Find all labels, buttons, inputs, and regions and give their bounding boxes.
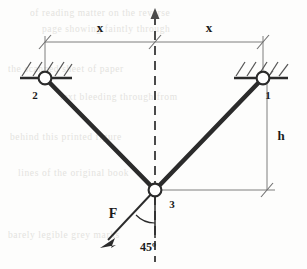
truss-figure: of reading matter on the reverse page sh… <box>0 0 307 269</box>
joint-label-1: 1 <box>265 89 271 101</box>
joint-circle-3 <box>149 184 162 197</box>
force-label-F: F <box>109 206 118 221</box>
truss-diagram-canvas: of reading matter on the reverse page sh… <box>0 0 307 269</box>
support-right-hatch-4 <box>279 64 288 76</box>
bg-line-0: of reading matter on the reverse <box>30 8 170 18</box>
dimension-label-h: h <box>277 128 285 143</box>
bg-line-3: text bleeding through from <box>60 92 178 102</box>
bg-line-5: lines of the original book <box>18 168 129 178</box>
angle-arc <box>136 215 155 223</box>
support-right-hatch-1 <box>247 62 256 76</box>
bg-line-1: page showing faintly through <box>42 24 170 34</box>
bg-line-6: barely legible grey marks <box>8 230 120 240</box>
joint-circle-2 <box>39 72 52 85</box>
angle-label-45deg: 45º <box>140 240 156 254</box>
joint-label-3: 3 <box>169 198 175 210</box>
joint-label-2: 2 <box>32 89 38 101</box>
support-right-hatch-3 <box>269 62 278 76</box>
dimension-label-x-left: x <box>97 20 104 35</box>
dimension-label-x-right: x <box>206 20 213 35</box>
support-right-hatch-0 <box>236 62 245 76</box>
joint-circle-1 <box>257 72 270 85</box>
force-vector-group: F 45º <box>100 190 156 254</box>
